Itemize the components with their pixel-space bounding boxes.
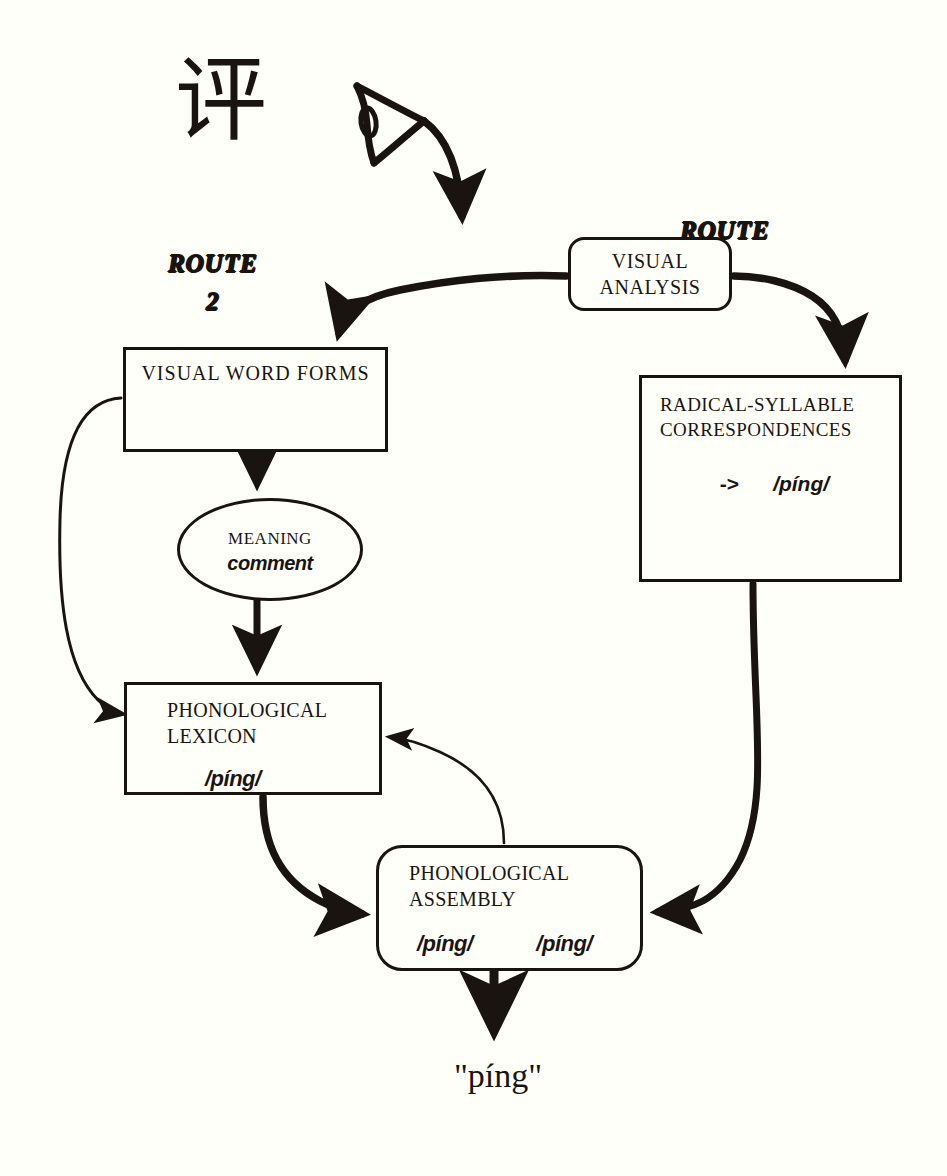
node-visual-word-forms[interactable]: VISUAL WORD FORMS [123,347,388,452]
node-phonological-assembly-title: PHONOLOGICAL ASSEMBLY [409,860,640,913]
node-radical-syllable-correspondences[interactable]: RADICAL-SYLLABLE CORRESPONDENCES ->/píng… [639,375,902,582]
assembly-syllable-left: /píng/ [417,931,473,957]
route-label-2: ROUTE 2 [148,245,278,320]
node-meaning-gloss: comment [227,552,312,575]
radical-syllable-mapping: ->/píng/ [660,472,899,496]
node-phonological-assembly[interactable]: PHONOLOGICAL ASSEMBLY /píng/ /píng/ [376,845,643,971]
node-visual-word-forms-title: VISUAL WORD FORMS [126,360,385,386]
arrow-radical-syllable-to-assembly [658,584,758,912]
spoken-output: "píng" [398,1057,598,1095]
node-meaning-title: MEANING [228,528,312,550]
arrow-visual-word-forms-to-lexicon-direct [60,398,122,714]
node-visual-analysis-title: VISUAL ANALYSIS [600,248,701,301]
node-phonological-lexicon[interactable]: PHONOLOGICAL LEXICON /píng/ [124,682,382,795]
node-radical-syllable-title: RADICAL-SYLLABLE CORRESPONDENCES [660,392,899,442]
node-phonological-lexicon-title: PHONOLOGICAL LEXICON [167,697,379,750]
connector-layer [0,0,947,1176]
route-2-number: 2 [148,283,278,321]
node-meaning[interactable]: MEANING comment [177,498,363,601]
arrow-stimulus-to-visual-analysis [424,121,462,216]
radical-syllable-arrow-text: -> [720,472,739,495]
arrow-assembly-to-lexicon-feedback [390,737,504,843]
node-visual-analysis[interactable]: VISUAL ANALYSIS [568,237,732,311]
assembly-syllable-row: /píng/ /píng/ [409,931,640,957]
arrow-visual-analysis-to-visual-word-forms [339,276,566,333]
arrow-visual-analysis-to-radical-syllable [734,276,845,360]
node-phonological-lexicon-syllable: /píng/ [205,766,379,792]
radical-syllable-syllable: /píng/ [773,472,829,495]
route-2-word: ROUTE [168,250,258,277]
eye-icon [357,86,424,163]
assembly-syllable-right: /píng/ [536,931,592,957]
hanzi-stimulus: 评 [175,55,267,147]
diagram-canvas: 评 ROUTE 2 ROUTE 1 VISUAL ANALYSIS VISUAL… [0,0,947,1176]
arrow-lexicon-to-assembly [263,797,362,914]
